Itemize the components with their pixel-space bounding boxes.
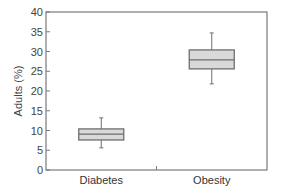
y-tick-label: 35	[31, 26, 43, 38]
x-category-label: Diabetes	[80, 174, 124, 186]
box-series	[79, 33, 235, 148]
y-tick-label: 40	[31, 6, 43, 18]
x-category-label: Obesity	[193, 174, 231, 186]
y-tick-label: 20	[31, 85, 43, 97]
y-axis: 0510152025303540	[31, 6, 50, 176]
y-tick-label: 30	[31, 46, 43, 58]
y-axis-label: Adults (%)	[12, 66, 24, 117]
y-tick-label: 5	[37, 144, 43, 156]
box-plot-chart: 0510152025303540 Adults (%) DiabetesObes…	[0, 0, 283, 192]
y-tick-label: 25	[31, 65, 43, 77]
y-tick-label: 15	[31, 105, 43, 117]
y-tick-label: 10	[31, 125, 43, 137]
plot-border	[46, 12, 267, 170]
box-diabetes	[79, 118, 124, 148]
y-tick-label: 0	[37, 164, 43, 176]
plot-frame	[46, 12, 267, 170]
box-obesity	[189, 33, 234, 84]
x-axis-labels: DiabetesObesity	[80, 166, 231, 186]
